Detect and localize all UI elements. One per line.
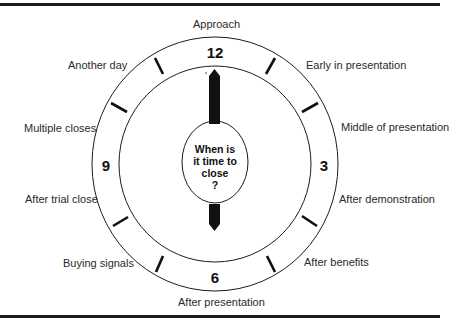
label-after-presentation: After presentation: [178, 296, 265, 308]
center-question-line-1: When is: [183, 143, 247, 155]
number-3: 3: [320, 157, 328, 174]
tick-4: [302, 216, 317, 226]
label-approach: Approach: [193, 18, 240, 30]
label-after-benefits: After benefits: [304, 256, 369, 268]
tick-8: [113, 217, 128, 226]
label-middle-of-presentation: Middle of presentation: [341, 121, 449, 133]
label-after-trial-close: After trial close: [25, 193, 98, 205]
number-6: 6: [211, 269, 219, 286]
center-question-line-3: close: [183, 167, 247, 179]
label-multiple-closes: Multiple closes: [24, 122, 96, 134]
label-another-day: Another day: [68, 59, 127, 71]
tick-11: [155, 58, 163, 74]
tick-7: [156, 256, 163, 272]
number-9: 9: [102, 157, 110, 174]
dot-marker: [205, 72, 207, 74]
label-buying-signals: Buying signals: [63, 257, 134, 269]
center-question: When is it time to close ?: [183, 143, 247, 191]
tick-1: [266, 58, 275, 74]
center-question-line-4: ?: [183, 179, 247, 191]
tick-2: [302, 103, 318, 112]
label-after-demonstration: After demonstration: [339, 193, 435, 205]
clock-hand-lower: [209, 204, 220, 231]
clock-hand-upper: [209, 69, 220, 124]
tick-10: [111, 103, 127, 112]
tick-5: [267, 256, 275, 272]
number-12: 12: [207, 44, 224, 61]
center-question-line-2: it time to: [183, 155, 247, 167]
label-early-in-presentation: Early in presentation: [306, 59, 406, 71]
